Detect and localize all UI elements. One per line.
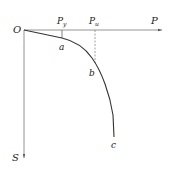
- point-a-label: a: [59, 42, 64, 52]
- point-c-label: c: [111, 140, 116, 150]
- load-settlement-curve: [24, 30, 114, 137]
- p-axis-label: P: [150, 15, 158, 26]
- pu-label: Pu: [88, 16, 99, 27]
- origin-label: O: [13, 24, 21, 35]
- point-b-label: b: [89, 68, 95, 78]
- s-axis-label: S: [12, 152, 19, 163]
- py-label: Py: [56, 16, 67, 28]
- load-settlement-diagram: O P S Py Pu a b c: [0, 0, 173, 174]
